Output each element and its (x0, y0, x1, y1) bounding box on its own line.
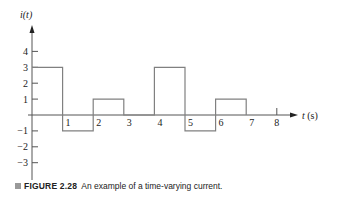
svg-text:6: 6 (219, 117, 224, 128)
axes (28, 25, 298, 180)
svg-text:−3: −3 (17, 157, 28, 168)
caption-square-icon (15, 183, 21, 189)
svg-text:3: 3 (127, 117, 132, 128)
svg-text:3: 3 (23, 62, 28, 73)
svg-text:t (s): t (s) (302, 110, 318, 122)
svg-text:8: 8 (274, 117, 279, 128)
current-waveform (32, 67, 246, 131)
svg-text:4: 4 (157, 117, 162, 128)
svg-text:1: 1 (23, 94, 28, 105)
svg-text:−2: −2 (17, 141, 28, 152)
svg-text:5: 5 (188, 117, 193, 128)
svg-text:1: 1 (66, 117, 71, 128)
svg-text:4: 4 (23, 46, 28, 57)
svg-text:−1: −1 (17, 125, 28, 136)
figure-label: FIGURE 2.28 (24, 181, 77, 191)
step-chart: 4321−1−2−312345678i(t)t (s) (0, 0, 342, 180)
svg-text:7: 7 (249, 117, 254, 128)
svg-text:i(t): i(t) (20, 9, 33, 21)
figure-caption: FIGURE 2.28 An example of a time-varying… (15, 181, 222, 191)
svg-text:2: 2 (23, 78, 28, 89)
caption-text: An example of a time-varying current. (81, 181, 222, 191)
svg-text:2: 2 (96, 117, 101, 128)
